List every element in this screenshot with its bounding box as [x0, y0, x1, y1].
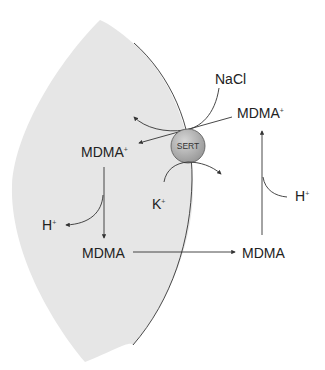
sert-label: SERT	[177, 141, 200, 151]
mdma-inside-label: MDMA	[82, 245, 125, 261]
h-uptake-arrow-outside	[263, 177, 287, 197]
nacl-label: NaCl	[215, 71, 246, 87]
mdma-plus-inside-label: MDMA+	[81, 144, 128, 160]
h-plus-outside-label: H+	[295, 188, 309, 204]
mdma-plus-outside-label: MDMA+	[237, 105, 284, 121]
cell-interior	[12, 20, 193, 362]
mdma-sert-diagram: SERT NaCl MDMA+ MDMA+ K+ H+ MDMA MDMA H+	[0, 0, 325, 370]
mdma-outside-label: MDMA	[242, 245, 285, 261]
